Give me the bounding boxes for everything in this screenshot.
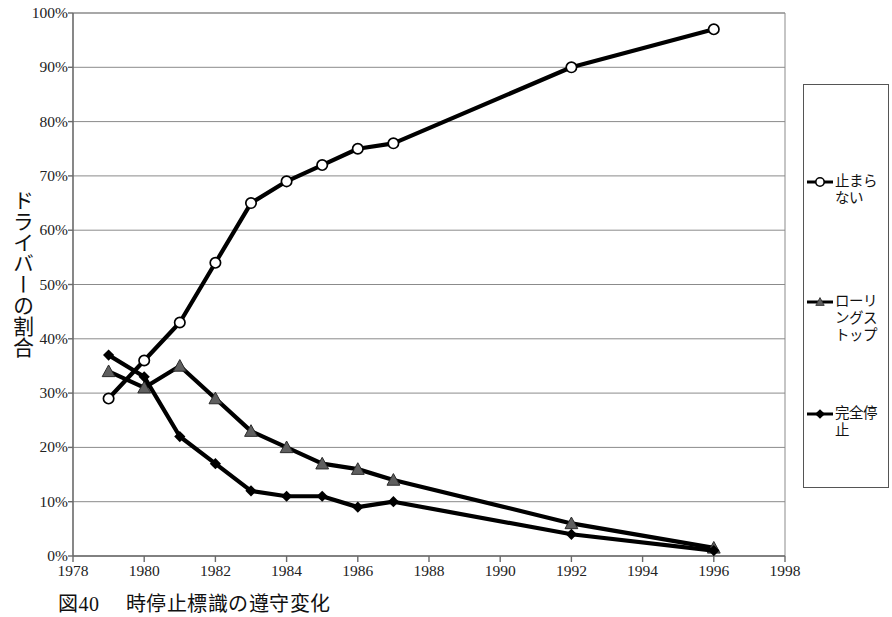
x-axis-tick-label: 1988 [394,562,464,580]
figure-caption-text: 時停止標識の遵守変化 [126,593,331,615]
x-axis-tick-label: 1982 [180,562,250,580]
chart-legend: 止まらない ローリングストップ 完全停止 [803,84,889,488]
legend-entry-stop-not: 止まらない [806,173,890,207]
legend-entry-full-stop: 完全停止 [806,405,890,439]
figure-caption: 図40時停止標識の遵守変化 [58,588,331,617]
legend-label: ローリングストップ [834,293,890,343]
x-axis-tick-label: 1990 [465,562,535,580]
x-axis-tick-label: 1994 [608,562,678,580]
x-axis-tick-label: 1996 [679,562,749,580]
legend-label: 完全停止 [834,405,890,439]
legend-entry-rolling-stop: ローリングストップ [806,293,890,343]
legend-marker-diamond-icon [806,406,834,422]
x-axis-tick-label: 1986 [323,562,393,580]
figure-caption-number: 図40 [58,593,100,615]
x-axis-tick-label: 1992 [536,562,606,580]
x-axis-tick-label: 1998 [750,562,820,580]
x-axis-tick-label: 1980 [109,562,179,580]
x-axis-tick-label: 1978 [38,562,108,580]
legend-marker-triangle-icon [806,294,834,310]
legend-marker-circle-open-icon [806,174,834,190]
legend-label: 止まらない [834,173,890,207]
x-axis-tick-label: 1984 [252,562,322,580]
